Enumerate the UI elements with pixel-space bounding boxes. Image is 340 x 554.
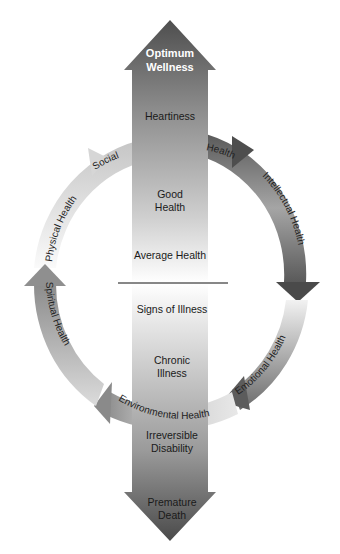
label-death: Death: [158, 509, 186, 521]
label-average-health: Average Health: [134, 249, 206, 261]
label-illness: Illness: [157, 367, 187, 379]
arrow-head-intellectual: [276, 282, 320, 302]
ring-segment-spiritual: [34, 284, 104, 406]
label-irreversible: Irreversible: [146, 429, 198, 441]
wellness-continuum-diagram: Social Health Intellectual Health Emotio…: [0, 0, 340, 554]
up-arrow: [124, 20, 216, 283]
label-good-health: Health: [155, 201, 186, 213]
label-chronic: Chronic: [154, 354, 190, 366]
label-wellness: Wellness: [146, 61, 194, 73]
label-good: Good: [157, 188, 183, 200]
label-premature: Premature: [147, 496, 196, 508]
label-heartiness: Heartiness: [145, 110, 195, 122]
label-optimum: Optimum: [146, 47, 194, 59]
label-signs-of-illness: Signs of Illness: [137, 303, 208, 315]
label-disability: Disability: [151, 442, 194, 454]
wellness-illness-axis: [118, 20, 228, 541]
